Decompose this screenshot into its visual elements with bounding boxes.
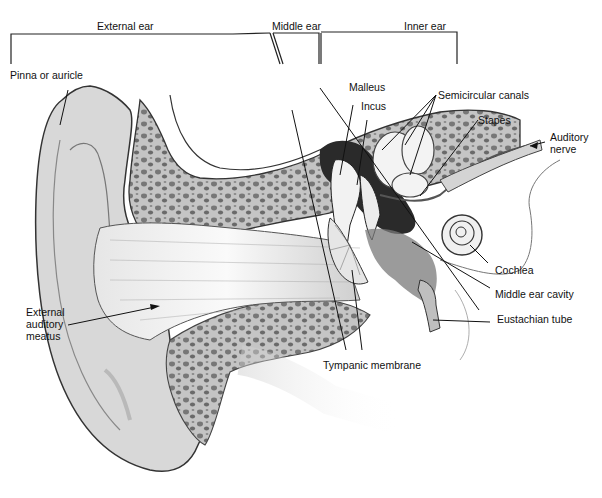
ear-illustration (0, 0, 602, 498)
label-cochlea: Cochlea (495, 264, 534, 276)
eustachian-tube-shape (418, 280, 440, 332)
label-auditory-nerve: Auditory nerve (550, 131, 589, 155)
label-tympanic-membrane: Tympanic membrane (323, 359, 421, 371)
ear-anatomy-diagram: External ear Middle ear Inner ear Pinna … (0, 0, 602, 498)
label-eustachian-tube: Eustachian tube (497, 313, 572, 325)
label-external-auditory-meatus: External auditory meatus (26, 306, 65, 342)
section-brackets (11, 32, 457, 64)
section-label-middle-ear: Middle ear (272, 20, 321, 32)
label-pinna: Pinna or auricle (10, 69, 83, 81)
cochlea-shape (442, 215, 482, 255)
label-stapes: Stapes (478, 114, 511, 126)
section-label-inner-ear: Inner ear (404, 20, 446, 32)
label-incus: Incus (361, 100, 386, 112)
label-middle-ear-cavity: Middle ear cavity (495, 288, 574, 300)
section-label-external-ear: External ear (97, 20, 154, 32)
label-semicircular-canals: Semicircular canals (438, 89, 529, 101)
label-malleus: Malleus (349, 81, 385, 93)
